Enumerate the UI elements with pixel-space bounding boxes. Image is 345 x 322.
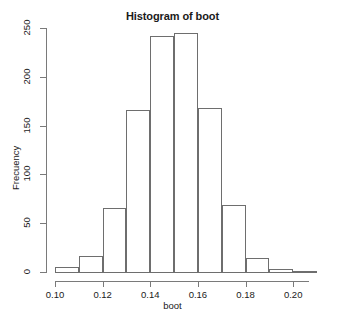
y-axis-tick bbox=[40, 174, 46, 175]
y-axis-tick bbox=[40, 77, 46, 78]
histogram-bar bbox=[198, 108, 222, 272]
x-axis-tick-label: 0.18 bbox=[231, 289, 261, 300]
y-axis-tick bbox=[40, 126, 46, 127]
x-axis-tick-label: 0.16 bbox=[183, 289, 213, 300]
x-axis-tick bbox=[150, 281, 151, 287]
histogram-plot: Histogram of boot Frecuency boot 0501001… bbox=[0, 0, 345, 322]
page-title: Histogram of boot bbox=[0, 10, 345, 22]
x-axis-tick bbox=[103, 281, 104, 287]
y-axis-tick bbox=[40, 272, 46, 273]
histogram-bar bbox=[79, 256, 103, 272]
histogram-bar bbox=[174, 33, 198, 272]
y-axis-line bbox=[46, 28, 47, 273]
y-axis-tick bbox=[40, 223, 46, 224]
y-axis-tick-label: 150 bbox=[21, 113, 32, 137]
y-axis-tick-label: 50 bbox=[21, 211, 32, 235]
x-axis-line bbox=[55, 281, 309, 282]
y-axis-tick bbox=[40, 28, 46, 29]
y-axis-tick-label: 250 bbox=[21, 16, 32, 40]
x-axis-tick-label: 0.20 bbox=[278, 289, 308, 300]
x-axis-tick-label: 0.10 bbox=[40, 289, 70, 300]
x-axis-tick-label: 0.12 bbox=[88, 289, 118, 300]
y-axis-tick-label: 0 bbox=[21, 260, 32, 284]
y-axis-label: Frecuency bbox=[10, 176, 21, 190]
x-axis-tick bbox=[55, 281, 56, 287]
y-axis-tick-label: 200 bbox=[21, 64, 32, 88]
histogram-bar bbox=[150, 36, 174, 272]
x-axis-tick bbox=[293, 281, 294, 287]
y-axis-tick-label: 100 bbox=[21, 162, 32, 186]
x-axis-tick bbox=[246, 281, 247, 287]
histogram-bar bbox=[126, 110, 150, 272]
histogram-bar bbox=[222, 205, 246, 272]
x-axis-tick bbox=[198, 281, 199, 287]
histogram-bar bbox=[103, 208, 127, 272]
x-axis-tick-label: 0.14 bbox=[135, 289, 165, 300]
histogram-bar bbox=[246, 258, 270, 272]
x-axis-label: boot bbox=[0, 300, 345, 311]
bar-baseline bbox=[55, 272, 317, 273]
